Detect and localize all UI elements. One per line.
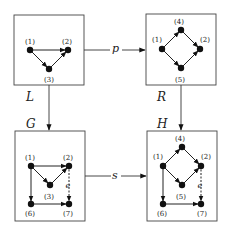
node-label-G-1: (1) [25,154,35,162]
node-R-1 [159,46,165,52]
node-H-2 [198,163,204,169]
node-L-3 [46,66,52,72]
node-label-H-1: (1) [153,153,163,161]
graph-label-L: L [25,90,34,104]
node-label-H-6: (6) [157,210,167,218]
graph-label-H: H [156,117,168,131]
node-L-2 [65,47,71,53]
morphism-label-p: p [112,42,119,55]
edge-H-1-5 [163,166,180,183]
morphism-s: s [85,169,146,182]
node-R-2 [197,46,203,52]
pushout-diagram: (1) (2) (3) L (4) (1) (2) (5) R (1) (2) … [0,0,229,232]
node-H-1 [160,163,166,169]
edge-L-1-3 [30,50,47,67]
edge-H-1-4 [163,149,180,166]
node-label-G-3: (3) [44,193,54,201]
node-G-1 [28,163,34,169]
node-H-7 [198,201,204,207]
node-label-L-1: (1) [25,38,35,46]
edge-H-4-2 [182,147,199,164]
node-L-1 [27,47,33,53]
edge-G-1-3 [31,166,48,183]
graph-H: (4) (1) (2) (5) (6) (7) e H [147,117,217,221]
node-label-H-5: (5) [176,193,186,201]
node-label-L-3: (3) [44,76,54,84]
node-label-H-4: (4) [175,135,185,143]
node-label-R-2: (2) [200,36,210,44]
edge-R-1-4 [162,32,179,49]
node-G-2 [66,163,72,169]
node-G-3 [47,182,53,188]
node-G-6 [28,201,34,207]
node-label-G-2: (2) [63,154,73,162]
edge-R-5-2 [181,51,198,68]
node-label-R-4: (4) [174,18,184,26]
edge-R-1-5 [162,49,179,66]
node-label-R-1: (1) [152,36,162,44]
node-G-7 [66,201,72,207]
morphism-label-s: s [112,169,118,182]
node-H-4 [179,144,185,150]
node-label-R-5: (5) [175,76,185,84]
edge-label-H-e: e [198,181,203,190]
node-label-G-7: (7) [63,210,73,218]
graph-label-R: R [156,90,166,104]
edge-L-3-2 [49,52,66,69]
node-label-H-2: (2) [201,153,211,161]
node-label-H-7: (7) [197,210,207,218]
node-label-L-2: (2) [62,38,72,46]
graph-label-G: G [26,117,36,131]
node-R-5 [178,65,184,71]
edge-label-G-e: e [66,181,71,190]
node-H-6 [160,201,166,207]
node-H-5 [179,182,185,188]
node-label-G-6: (6) [25,210,35,218]
edge-R-4-2 [181,30,198,47]
edge-H-5-2 [182,168,199,185]
edge-G-3-2 [50,168,67,185]
node-R-4 [178,27,184,33]
graph-G: (1) (2) (3) (6) (7) e G [15,117,85,221]
graph-G-box [15,131,85,221]
morphism-p: p [84,42,145,55]
